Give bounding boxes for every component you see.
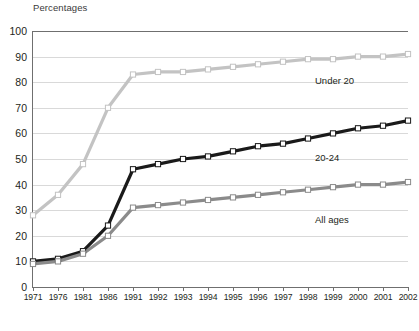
x-tick-label: 1981 <box>74 292 93 302</box>
data-point-marker <box>130 72 135 77</box>
data-point-marker <box>180 200 185 205</box>
data-point-marker <box>255 192 260 197</box>
data-point-marker <box>155 69 160 74</box>
data-point-marker <box>280 59 285 64</box>
data-point-marker <box>155 162 160 167</box>
data-point-marker <box>155 202 160 207</box>
y-tick-label: 50 <box>15 153 27 165</box>
x-tick-label: 2002 <box>399 292 418 302</box>
data-point-marker <box>330 57 335 62</box>
data-point-marker <box>105 105 110 110</box>
x-tick <box>233 287 234 291</box>
x-tick-label: 1999 <box>324 292 343 302</box>
data-point-marker <box>180 156 185 161</box>
data-point-marker <box>380 123 385 128</box>
x-tick-label: 1986 <box>99 292 118 302</box>
data-point-marker <box>355 182 360 187</box>
x-tick <box>83 287 84 291</box>
y-tick-label: 30 <box>15 204 27 216</box>
chart-container: Percentages 0102030405060708090100 19711… <box>0 0 419 331</box>
data-point-marker <box>355 54 360 59</box>
data-point-marker <box>180 69 185 74</box>
data-point-marker <box>230 149 235 154</box>
y-tick-label: 20 <box>15 230 27 242</box>
data-point-marker <box>380 182 385 187</box>
y-tick-label: 100 <box>9 25 27 37</box>
x-tick <box>133 287 134 291</box>
data-point-marker <box>405 51 410 56</box>
data-point-marker <box>405 118 410 123</box>
x-tick <box>58 287 59 291</box>
plot-area <box>33 31 408 287</box>
x-axis-line <box>32 287 408 288</box>
data-point-marker <box>305 187 310 192</box>
data-point-marker <box>105 223 110 228</box>
x-tick <box>108 287 109 291</box>
data-point-marker <box>230 64 235 69</box>
x-tick-label: 1992 <box>149 292 168 302</box>
data-point-marker <box>130 205 135 210</box>
x-tick-label: 1994 <box>199 292 218 302</box>
y-tick-label: 10 <box>15 255 27 267</box>
series-line <box>33 182 408 264</box>
x-tick-label: 1996 <box>249 292 268 302</box>
x-tick-label: 1976 <box>49 292 68 302</box>
series-line <box>33 121 408 262</box>
data-point-marker <box>255 62 260 67</box>
data-point-marker <box>230 195 235 200</box>
x-tick <box>308 287 309 291</box>
x-tick <box>183 287 184 291</box>
y-tick-label: 60 <box>15 127 27 139</box>
data-point-marker <box>55 259 60 264</box>
x-tick-label: 1991 <box>124 292 143 302</box>
data-point-marker <box>380 54 385 59</box>
data-point-marker <box>55 192 60 197</box>
x-tick <box>33 287 34 291</box>
data-point-marker <box>305 57 310 62</box>
data-point-marker <box>255 144 260 149</box>
chart-title: Percentages <box>33 2 87 13</box>
x-tick-label: 1998 <box>299 292 318 302</box>
data-point-marker <box>80 251 85 256</box>
x-tick <box>283 287 284 291</box>
x-tick-label: 1995 <box>224 292 243 302</box>
data-point-marker <box>330 185 335 190</box>
data-point-marker <box>405 179 410 184</box>
data-point-marker <box>205 154 210 159</box>
data-point-marker <box>280 190 285 195</box>
x-tick <box>333 287 334 291</box>
series-lines <box>33 31 408 287</box>
y-tick-label: 80 <box>15 76 27 88</box>
x-tick-label: 1971 <box>24 292 43 302</box>
x-tick-label: 1993 <box>174 292 193 302</box>
x-tick-label: 2001 <box>374 292 393 302</box>
data-point-marker <box>130 167 135 172</box>
data-point-marker <box>330 131 335 136</box>
x-tick-label: 1997 <box>274 292 293 302</box>
y-axis-labels: 0102030405060708090100 <box>0 0 29 331</box>
y-tick-label: 90 <box>15 51 27 63</box>
data-point-marker <box>305 136 310 141</box>
data-point-marker <box>105 233 110 238</box>
x-tick <box>383 287 384 291</box>
y-tick-label: 70 <box>15 102 27 114</box>
x-tick <box>408 287 409 291</box>
series-label: All ages <box>315 214 349 225</box>
series-label: Under 20 <box>315 75 354 86</box>
x-tick <box>158 287 159 291</box>
data-point-marker <box>355 126 360 131</box>
data-point-marker <box>205 67 210 72</box>
x-tick <box>358 287 359 291</box>
series-label: 20-24 <box>315 152 339 163</box>
data-point-marker <box>30 213 35 218</box>
data-point-marker <box>30 261 35 266</box>
data-point-marker <box>280 141 285 146</box>
data-point-marker <box>205 197 210 202</box>
data-point-marker <box>80 162 85 167</box>
y-tick-label: 40 <box>15 179 27 191</box>
x-tick <box>208 287 209 291</box>
x-tick-label: 2000 <box>349 292 368 302</box>
x-tick <box>258 287 259 291</box>
